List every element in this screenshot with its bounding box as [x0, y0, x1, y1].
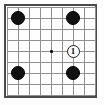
go-diagram-root: 1 Go board diagram [0, 0, 104, 105]
center-star-point [50, 50, 53, 53]
white-stone-move-1[interactable]: 1 [67, 45, 80, 58]
black-stone-bottom-right[interactable] [66, 66, 80, 80]
board-stones: 1 [0, 0, 104, 105]
stone-label: 1 [71, 47, 76, 56]
black-stone-top-left[interactable] [11, 11, 25, 25]
black-stone-top-right[interactable] [66, 11, 80, 25]
black-stone-bottom-left[interactable] [11, 66, 25, 80]
